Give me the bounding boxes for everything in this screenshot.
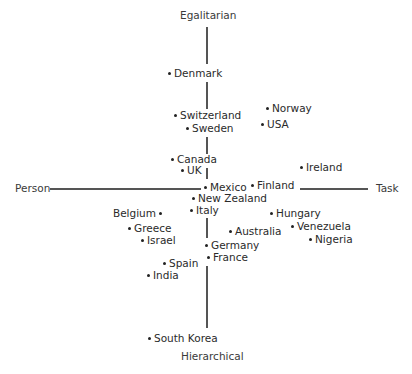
data-point-italy: Italy [190, 204, 219, 216]
point-label: Israel [147, 234, 176, 246]
data-point-france: France [207, 251, 248, 263]
data-point-australia: Australia [229, 225, 281, 237]
vertical-axis-segment [206, 27, 208, 64]
data-point-switzerland: Switzerland [174, 109, 241, 121]
point-marker-icon [229, 230, 232, 233]
axis-label-top: Egalitarian [180, 9, 236, 21]
data-point-uk: UK [181, 164, 202, 176]
data-point-south-korea: South Korea [148, 332, 218, 344]
vertical-axis-segment [206, 218, 208, 238]
axis-label-right: Task [376, 182, 399, 194]
axis-label-left: Person [15, 182, 50, 194]
data-point-finland: Finland [251, 179, 295, 191]
point-label: Italy [196, 204, 219, 216]
point-label: Germany [211, 239, 259, 251]
vertical-axis-segment [206, 266, 208, 328]
point-marker-icon [163, 262, 166, 265]
point-label: India [153, 269, 179, 281]
point-marker-icon [168, 72, 171, 75]
point-label: Finland [257, 179, 295, 191]
axis-label-bottom: Hierarchical [181, 350, 244, 362]
vertical-axis-segment [206, 168, 208, 179]
point-marker-icon [174, 114, 177, 117]
point-marker-icon [128, 227, 131, 230]
data-point-nigeria: Nigeria [309, 233, 353, 245]
culture-map-chart: Egalitarian Hierarchical Person Task Den… [0, 0, 412, 374]
point-label: Hungary [276, 207, 321, 219]
point-marker-icon [207, 256, 210, 259]
point-marker-icon [309, 238, 312, 241]
data-point-usa: USA [261, 118, 289, 130]
point-label: Greece [134, 222, 171, 234]
data-point-greece: Greece [128, 222, 171, 234]
data-point-israel: Israel [141, 234, 176, 246]
point-marker-icon [159, 212, 162, 215]
point-label: South Korea [154, 332, 218, 344]
data-point-norway: Norway [266, 102, 312, 114]
point-label: Ireland [306, 161, 342, 173]
point-marker-icon [291, 225, 294, 228]
data-point-spain: Spain [163, 257, 198, 269]
horizontal-axis-segment [50, 188, 201, 190]
point-marker-icon [266, 107, 269, 110]
data-point-denmark: Denmark [168, 67, 222, 79]
point-label: Norway [272, 102, 312, 114]
point-label: USA [267, 118, 289, 130]
point-label: Switzerland [180, 109, 241, 121]
point-label: Spain [169, 257, 198, 269]
point-marker-icon [171, 158, 174, 161]
point-marker-icon [261, 123, 264, 126]
data-point-hungary: Hungary [270, 207, 321, 219]
point-marker-icon [205, 244, 208, 247]
point-marker-icon [270, 212, 273, 215]
point-marker-icon [300, 166, 303, 169]
point-marker-icon [190, 209, 193, 212]
data-point-germany: Germany [205, 239, 259, 251]
data-point-india: India [147, 269, 179, 281]
point-label: Nigeria [315, 233, 353, 245]
point-label: Denmark [174, 67, 222, 79]
data-point-sweden: Sweden [186, 122, 234, 134]
point-label: New Zealand [198, 192, 267, 204]
point-marker-icon [181, 169, 184, 172]
point-label: UK [187, 164, 202, 176]
point-marker-icon [148, 337, 151, 340]
horizontal-axis-segment [300, 188, 368, 190]
point-label: Sweden [192, 122, 234, 134]
point-marker-icon [204, 186, 207, 189]
point-label: Belgium [113, 207, 156, 219]
point-label: Venezuela [297, 220, 351, 232]
point-marker-icon [192, 197, 195, 200]
data-point-ireland: Ireland [300, 161, 342, 173]
point-label: France [213, 251, 248, 263]
data-point-venezuela: Venezuela [291, 220, 351, 232]
data-point-new-zealand: New Zealand [192, 192, 267, 204]
point-label: Australia [235, 225, 281, 237]
point-marker-icon [251, 184, 254, 187]
vertical-axis-segment [206, 137, 208, 154]
point-marker-icon [186, 127, 189, 130]
vertical-axis-segment [206, 82, 208, 109]
point-marker-icon [141, 239, 144, 242]
data-point-belgium: Belgium [113, 207, 162, 219]
point-marker-icon [147, 274, 150, 277]
